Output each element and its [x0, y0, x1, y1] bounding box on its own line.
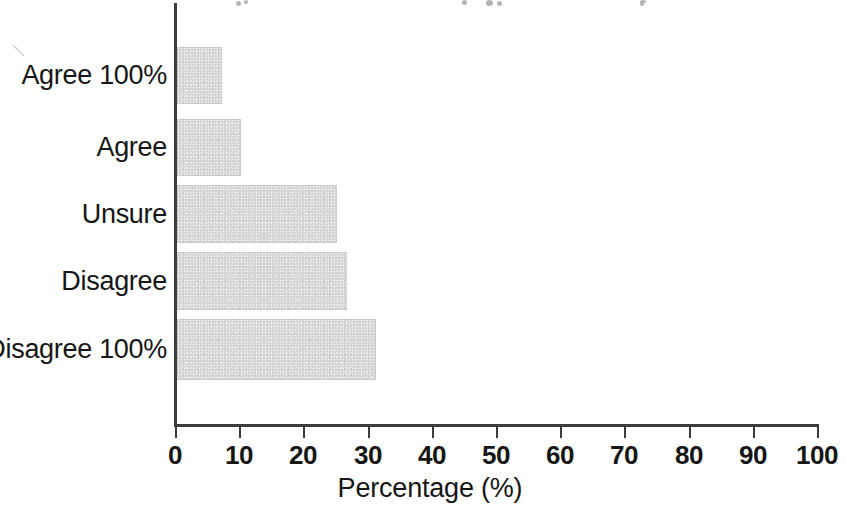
x-axis-title-text: Percentage (%) — [324, 473, 523, 504]
x-tick-label: 100 — [793, 440, 841, 471]
x-tick-label: 10 — [219, 440, 259, 471]
category-label-unsure: Unsure — [82, 199, 167, 230]
bar-agree-100 — [177, 47, 222, 104]
x-tick-70 — [624, 427, 626, 438]
category-label-disagree-100: Disagree 100% — [0, 334, 167, 365]
x-tick-10 — [239, 427, 241, 438]
x-tick-label: 30 — [348, 440, 388, 471]
x-axis-title: Percentage (%) — [0, 473, 846, 504]
category-label-agree: Agree — [96, 132, 167, 163]
category-label-disagree: Disagree — [61, 266, 167, 297]
x-tick-label: 70 — [604, 440, 644, 471]
bar-unsure — [177, 185, 337, 243]
bar-chart: 0 10 20 30 40 50 60 70 80 90 100 Agree 1… — [0, 0, 846, 507]
x-tick-0 — [175, 427, 177, 438]
x-tick-label: 20 — [283, 440, 323, 471]
x-tick-30 — [368, 427, 370, 438]
scan-artifact-strip — [0, 0, 846, 7]
x-tick-60 — [560, 427, 562, 438]
x-tick-90 — [753, 427, 755, 438]
x-tick-label: 0 — [155, 440, 195, 471]
x-tick-label: 50 — [476, 440, 516, 471]
scan-corner-mark-icon — [12, 44, 26, 58]
x-tick-label: 90 — [733, 440, 773, 471]
x-tick-20 — [303, 427, 305, 438]
category-label-agree-100: Agree 100% — [21, 60, 167, 91]
x-tick-label: 60 — [540, 440, 580, 471]
x-tick-label: 80 — [669, 440, 709, 471]
bar-disagree-100 — [177, 319, 376, 380]
x-tick-label: 40 — [412, 440, 452, 471]
bar-agree — [177, 119, 241, 176]
x-tick-100 — [817, 427, 819, 438]
x-tick-40 — [432, 427, 434, 438]
x-tick-80 — [689, 427, 691, 438]
x-tick-50 — [496, 427, 498, 438]
bar-disagree — [177, 252, 347, 310]
